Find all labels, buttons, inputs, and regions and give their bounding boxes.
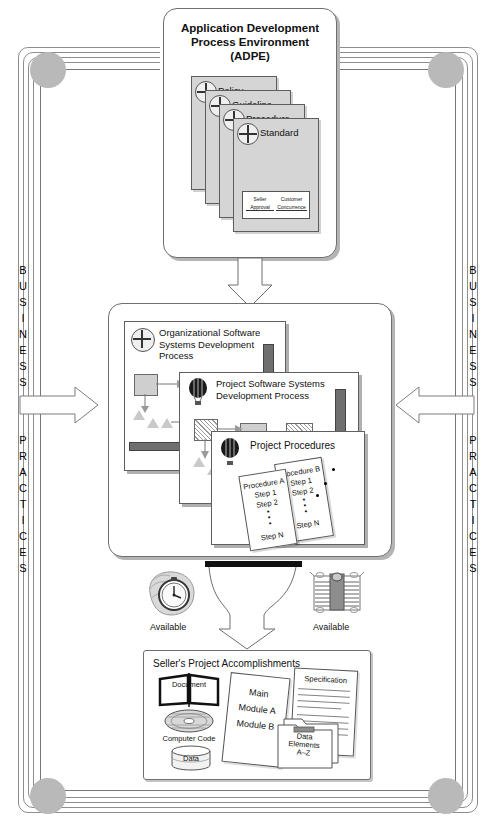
- stack-of-documents-icon: [308, 568, 366, 618]
- specification-label: Specification: [295, 673, 357, 685]
- accomplishments-panel: Seller's Project Accomplishments Documen…: [143, 650, 371, 780]
- document-book-icon: [158, 673, 220, 707]
- computer-code-disc-icon: [164, 709, 214, 733]
- stopwatch-in-hand-icon: [144, 567, 200, 619]
- code-sheet-line-1: Main: [229, 685, 288, 701]
- available-label-left: Available: [150, 622, 186, 632]
- computer-code-label: Computer Code: [156, 735, 222, 743]
- available-label-right: Available: [313, 622, 349, 632]
- accomplishments-title: Seller's Project Accomplishments: [153, 658, 300, 669]
- data-label: Data: [170, 755, 212, 763]
- diagram-canvas: B U S I N E S S P R A C T I C E S B U S …: [0, 0, 494, 831]
- document-label: Document: [166, 681, 212, 689]
